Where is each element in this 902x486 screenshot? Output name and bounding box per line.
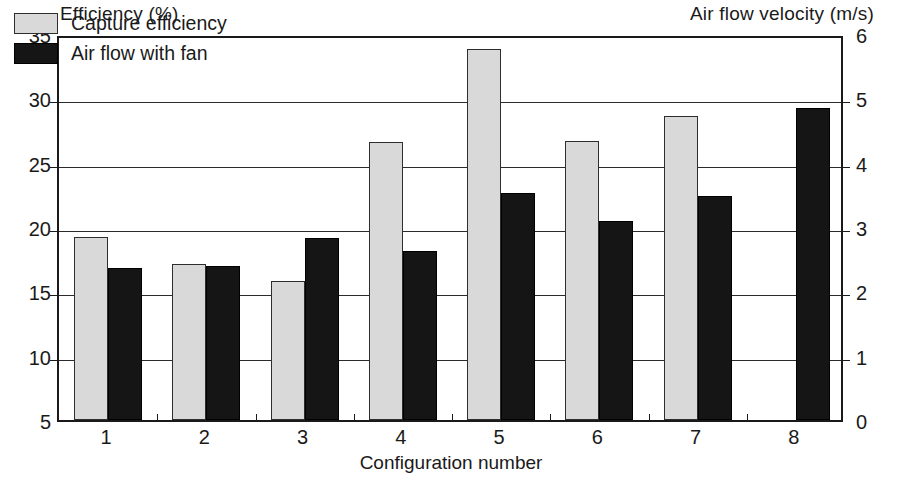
bar-capture-efficiency — [74, 237, 108, 420]
legend-item[interactable]: Air flow with fan — [14, 38, 227, 68]
right-axis-title: Air flow velocity (m/s) — [690, 3, 874, 25]
x-axis-tick-label: 1 — [101, 426, 112, 449]
x-axis-tick — [649, 414, 650, 421]
right-axis-tick-label: 4 — [856, 153, 896, 176]
right-axis-tick-label: 2 — [856, 282, 896, 305]
bar-capture-efficiency — [664, 116, 698, 420]
x-axis-tick — [157, 414, 158, 421]
x-axis-title: Configuration number — [0, 452, 902, 474]
bar-capture-efficiency — [369, 142, 403, 420]
x-axis-tick — [354, 414, 355, 421]
bar-air-flow-with-fan — [599, 221, 633, 420]
right-axis-tick-label: 1 — [856, 346, 896, 369]
legend-label: Capture efficiency — [71, 12, 227, 35]
bar-capture-efficiency — [271, 281, 305, 420]
bar-air-flow-with-fan — [108, 268, 142, 420]
left-axis-tick — [50, 231, 59, 232]
bar-air-flow-with-fan — [305, 238, 339, 420]
bar-air-flow-with-fan — [403, 251, 437, 420]
right-axis-tick — [841, 360, 850, 361]
chart-legend: Capture efficiencyAir flow with fan — [14, 8, 227, 68]
legend-item[interactable]: Capture efficiency — [14, 8, 227, 38]
x-axis-tick — [256, 414, 257, 421]
bar-capture-efficiency — [172, 264, 206, 420]
bar-capture-efficiency — [467, 49, 501, 420]
right-axis-tick-label: 3 — [856, 218, 896, 241]
left-axis-tick — [50, 167, 59, 168]
bar-capture-efficiency — [565, 141, 599, 420]
left-axis-tick — [50, 360, 59, 361]
bar-air-flow-with-fan — [206, 266, 240, 420]
x-axis-tick-label: 5 — [494, 426, 505, 449]
x-axis-tick-label: 2 — [199, 426, 210, 449]
x-axis-tick-label: 4 — [395, 426, 406, 449]
x-axis-tick-label: 8 — [788, 426, 799, 449]
x-axis-tick — [452, 414, 453, 421]
right-axis-tick-label: 6 — [856, 25, 896, 48]
plot-area — [57, 36, 843, 422]
left-axis-tick — [50, 102, 59, 103]
left-axis-tick-label: 10 — [5, 346, 51, 369]
bar-air-flow-with-fan — [796, 108, 830, 420]
right-axis-tick-label: 0 — [856, 411, 896, 434]
gridline — [59, 102, 841, 103]
bar-air-flow-with-fan — [698, 196, 732, 420]
right-axis-tick — [841, 231, 850, 232]
gridline — [59, 167, 841, 168]
x-axis-tick — [747, 414, 748, 421]
left-axis-tick-label: 30 — [5, 89, 51, 112]
legend-swatch-grey — [14, 13, 58, 34]
x-axis-tick-label: 7 — [690, 426, 701, 449]
left-axis-tick-label: 5 — [5, 411, 51, 434]
legend-label: Air flow with fan — [71, 42, 208, 65]
legend-swatch-black — [14, 43, 58, 64]
right-axis-tick — [841, 102, 850, 103]
x-axis-tick — [550, 414, 551, 421]
right-axis-tick-label: 5 — [856, 89, 896, 112]
left-axis-tick-label: 20 — [5, 218, 51, 241]
right-axis-tick — [841, 295, 850, 296]
chart-figure: Efficiency (%) Air flow velocity (m/s) 3… — [0, 0, 902, 486]
x-axis-tick-label: 3 — [297, 426, 308, 449]
right-axis-tick — [841, 167, 850, 168]
left-axis-tick-label: 15 — [5, 282, 51, 305]
left-axis-tick-label: 25 — [5, 153, 51, 176]
left-axis-tick — [50, 295, 59, 296]
bar-air-flow-with-fan — [501, 193, 535, 420]
x-axis-tick-label: 6 — [592, 426, 603, 449]
